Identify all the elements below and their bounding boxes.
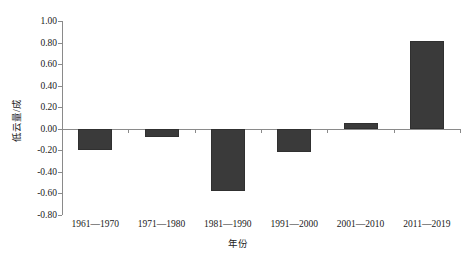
bar — [344, 123, 378, 128]
x-tick-label: 2001—2010 — [337, 219, 385, 229]
y-axis-tick-labels: 1.000.800.600.400.200.00-0.20-0.40-0.60-… — [18, 15, 60, 215]
y-tick-mark — [58, 64, 62, 65]
y-tick-label: -0.60 — [37, 188, 57, 198]
x-tick-label: 1991—2000 — [270, 219, 318, 229]
y-tick-mark — [58, 150, 62, 151]
y-tick-mark — [58, 215, 62, 216]
x-tick-label: 1981—1990 — [204, 219, 252, 229]
bar — [277, 129, 311, 153]
x-tick-mark — [327, 129, 328, 133]
x-tick-mark — [128, 129, 129, 133]
y-tick-label: 0.60 — [40, 59, 57, 69]
x-tick-mark — [460, 129, 461, 133]
bar — [211, 129, 245, 192]
x-axis-title: 年份 — [0, 236, 476, 250]
y-tick-label: 0.40 — [40, 81, 57, 91]
y-tick-label: 1.00 — [40, 16, 57, 26]
y-tick-label: 0.20 — [40, 102, 57, 112]
x-axis-tick-labels: 1961—19701971—19801981—19901991—20002001… — [62, 219, 460, 235]
x-tick-label: 1971—1980 — [138, 219, 186, 229]
bar — [145, 129, 179, 138]
x-tick-label: 1961—1970 — [71, 219, 119, 229]
x-tick-label: 2011—2019 — [403, 219, 450, 229]
x-axis-title-label: 年份 — [228, 239, 248, 249]
y-tick-label: 0.00 — [40, 124, 57, 134]
y-tick-mark — [58, 172, 62, 173]
y-tick-mark — [58, 86, 62, 87]
y-tick-label: -0.80 — [37, 210, 57, 220]
x-tick-mark — [261, 129, 262, 133]
bar-chart: 低云量/成 1.000.800.600.400.200.00-0.20-0.40… — [0, 0, 476, 265]
y-tick-mark — [58, 107, 62, 108]
x-tick-mark — [195, 129, 196, 133]
y-tick-label: -0.20 — [37, 145, 57, 155]
y-tick-label: 0.80 — [40, 38, 57, 48]
y-tick-mark — [58, 193, 62, 194]
y-axis-line — [62, 21, 63, 215]
y-tick-mark — [58, 129, 62, 130]
y-tick-mark — [58, 21, 62, 22]
bar — [78, 129, 112, 151]
y-tick-mark — [58, 43, 62, 44]
bar — [410, 41, 444, 128]
plot-area — [62, 21, 460, 215]
x-tick-mark — [394, 129, 395, 133]
y-tick-label: -0.40 — [37, 167, 57, 177]
